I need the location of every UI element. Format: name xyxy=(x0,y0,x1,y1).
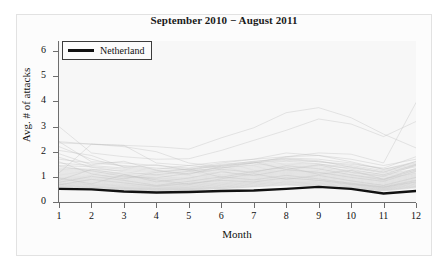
x-tick-mark xyxy=(254,203,255,208)
series-canvas xyxy=(59,41,416,202)
legend: Netherland xyxy=(62,41,152,60)
x-tick-label: 10 xyxy=(338,210,364,221)
background-series-line xyxy=(59,119,416,159)
x-tick-label: 1 xyxy=(46,210,72,221)
y-tick-mark xyxy=(53,51,58,52)
x-axis-title: Month xyxy=(58,228,416,240)
x-tick-label: 8 xyxy=(273,210,299,221)
y-tick-mark xyxy=(53,127,58,128)
chart-title: September 2010 − August 2011 xyxy=(0,14,448,26)
x-tick-mark xyxy=(286,203,287,208)
x-tick-label: 11 xyxy=(371,210,397,221)
x-tick-mark xyxy=(221,203,222,208)
x-axis-line xyxy=(58,202,416,203)
x-tick-mark xyxy=(156,203,157,208)
x-tick-label: 6 xyxy=(208,210,234,221)
y-tick-mark xyxy=(53,202,58,203)
legend-line-swatch xyxy=(68,49,94,52)
x-tick-mark xyxy=(384,203,385,208)
plot-area xyxy=(59,41,416,202)
x-tick-label: 2 xyxy=(78,210,104,221)
y-tick-mark xyxy=(53,76,58,77)
y-tick-label: 0 xyxy=(0,195,46,206)
chart-figure: September 2010 − August 2011 0123456 123… xyxy=(0,0,448,270)
line-series-group xyxy=(59,103,416,194)
y-axis-line xyxy=(58,41,59,202)
x-tick-label: 9 xyxy=(306,210,332,221)
x-tick-mark xyxy=(124,203,125,208)
y-axis-title: Avg. # of attacks xyxy=(20,35,32,175)
y-tick-mark xyxy=(53,177,58,178)
x-tick-mark xyxy=(319,203,320,208)
legend-item-label: Netherland xyxy=(100,45,144,56)
x-tick-label: 12 xyxy=(403,210,429,221)
x-tick-label: 5 xyxy=(176,210,202,221)
x-tick-label: 7 xyxy=(241,210,267,221)
x-tick-mark xyxy=(59,203,60,208)
y-tick-mark xyxy=(53,152,58,153)
x-tick-mark xyxy=(189,203,190,208)
x-tick-label: 3 xyxy=(111,210,137,221)
x-tick-mark xyxy=(91,203,92,208)
x-tick-mark xyxy=(351,203,352,208)
x-tick-mark xyxy=(416,203,417,208)
x-tick-label: 4 xyxy=(143,210,169,221)
y-tick-mark xyxy=(53,101,58,102)
